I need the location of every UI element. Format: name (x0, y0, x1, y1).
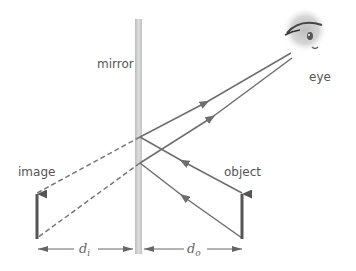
reflected-rays (140, 53, 292, 163)
object-distance-label: do (187, 241, 201, 258)
eye-icon (282, 7, 328, 53)
object-label: object (224, 165, 261, 179)
virtual-rays (37, 137, 140, 238)
eye-label: eye (309, 70, 331, 84)
mirror-label: mirror (97, 57, 134, 71)
image-label: image (18, 165, 55, 179)
plane-mirror-diagram: mirror eye image object di (0, 0, 356, 271)
image-distance-label: di (79, 241, 90, 258)
incident-rays (140, 137, 242, 238)
